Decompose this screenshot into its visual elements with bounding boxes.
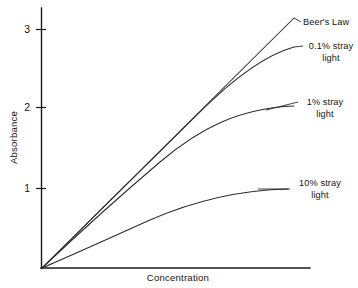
leader-stray-0-1-percent <box>294 46 303 47</box>
y-axis-title: Absorbance <box>8 78 19 198</box>
absorbance-vs-concentration-chart: 3 2 1 Absorbance Concentration Beer's La… <box>0 0 358 288</box>
curve-label-stray-0-1-percent: 0.1% stray light <box>305 41 357 65</box>
x-axis-title: Concentration <box>98 272 258 283</box>
curve-stray-1-percent <box>42 106 294 268</box>
curve-label-stray-10-percent: 10% stray light <box>291 178 349 202</box>
curve-label-stray-1-percent: 1% stray light <box>300 97 350 121</box>
curve-label-beers-law: Beer's Law <box>303 17 349 29</box>
y-tick-label-3: 3 <box>12 24 30 35</box>
curve-stray-0-1-percent <box>42 47 294 268</box>
leader-beers-law <box>294 18 301 22</box>
curve-stray-10-percent <box>42 189 288 268</box>
